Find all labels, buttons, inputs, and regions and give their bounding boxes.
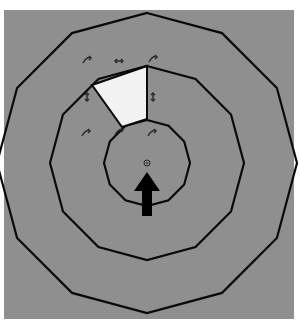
curved-arrow-icon (82, 129, 90, 136)
center-marker-dot (146, 162, 148, 164)
double-arrow-vertical-icon (85, 93, 89, 101)
rings-group (0, 13, 297, 313)
up-arrow-group (134, 172, 160, 216)
double-arrow-horizontal-icon (115, 59, 123, 63)
curved-arrow-icon (83, 56, 91, 63)
center-marker-group (144, 160, 150, 166)
outer-ring (0, 13, 297, 313)
up-arrow-icon (134, 172, 160, 216)
double-arrow-vertical-icon (151, 93, 155, 101)
highlighted-sector-group (92, 66, 147, 127)
curved-arrow-icon (148, 129, 156, 136)
highlighted-sector (92, 66, 147, 127)
curved-arrow-icon (149, 55, 157, 62)
concentric-dodecagon-diagram (0, 0, 299, 327)
